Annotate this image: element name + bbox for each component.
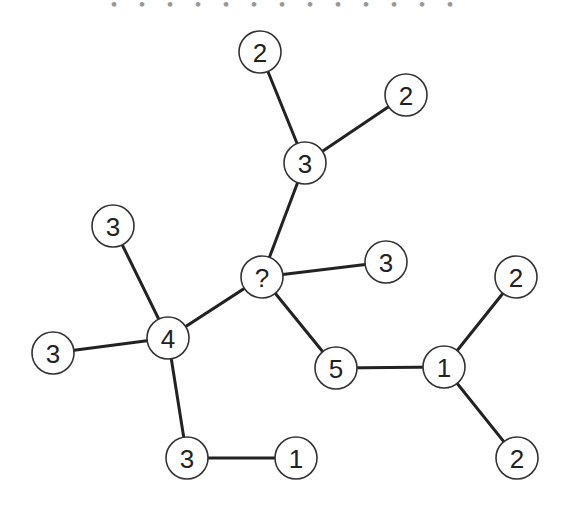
node-label: 2	[509, 263, 523, 293]
node-label: 1	[289, 444, 303, 474]
node-label: 4	[161, 324, 175, 354]
node-label: 5	[329, 354, 343, 384]
node-label: 3	[180, 444, 194, 474]
node-label: 3	[379, 248, 393, 278]
graph-node: 3	[166, 437, 208, 479]
number-graph-diagram: 2233?323451312	[0, 0, 569, 512]
graph-node: 1	[275, 437, 317, 479]
unknown-node: ?	[241, 256, 283, 298]
node-label: 2	[253, 38, 267, 68]
node-label: 3	[46, 339, 60, 369]
graph-node: 3	[32, 332, 74, 374]
graph-node: 3	[92, 205, 134, 247]
node-label: 1	[437, 353, 451, 383]
graph-node: 2	[496, 437, 538, 479]
node-label: 2	[399, 81, 413, 111]
graph-node: 2	[495, 256, 537, 298]
graph-node: 4	[147, 317, 189, 359]
node-label: 3	[106, 212, 120, 242]
node-label: 2	[510, 444, 524, 474]
graph-node: 2	[239, 31, 281, 73]
graph-nodes: 2233?323451312	[32, 31, 538, 479]
graph-node: 2	[385, 74, 427, 116]
graph-node: 5	[315, 347, 357, 389]
node-label: 3	[298, 149, 312, 179]
graph-edges	[53, 52, 517, 458]
node-label: ?	[255, 263, 269, 293]
graph-node: 3	[365, 241, 407, 283]
graph-node: 3	[284, 142, 326, 184]
graph-node: 1	[423, 346, 465, 388]
